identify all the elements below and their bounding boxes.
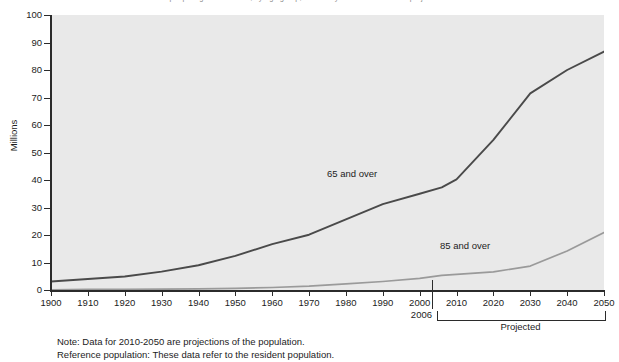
series-line-85-and-over	[51, 233, 604, 290]
x-tick-1960	[272, 291, 273, 296]
projected-bracket	[437, 311, 606, 321]
y-tick-10	[44, 263, 50, 264]
x-tick-1940	[199, 291, 200, 296]
y-tick-80	[44, 70, 50, 71]
y-tick-70	[44, 98, 50, 99]
x-tick-label-1920: 1920	[105, 297, 145, 308]
y-tick-label-0: 0	[10, 285, 42, 295]
x-tick-2040	[567, 291, 568, 296]
x-tick-1900	[51, 291, 52, 296]
x-tick-1930	[162, 291, 163, 296]
y-tick-label-70: 70	[10, 93, 42, 103]
x-tick-1980	[346, 291, 347, 296]
x-tick-label-1900: 1900	[31, 297, 71, 308]
series-line-65-and-over	[51, 52, 604, 282]
x-tick-label-1910: 1910	[68, 297, 108, 308]
x-tick-label-1930: 1930	[142, 297, 182, 308]
x-tick-label-1960: 1960	[252, 297, 292, 308]
x-tick-label-2030: 2030	[510, 297, 550, 308]
y-tick-label-20: 20	[10, 230, 42, 240]
x-tick-1990	[383, 291, 384, 296]
x-axis-line	[50, 290, 605, 292]
x-tick-2020	[493, 291, 494, 296]
footnote-reference: Reference population: These data refer t…	[57, 349, 597, 362]
x-tick-2000	[420, 291, 421, 296]
projected-label: Projected	[437, 321, 604, 332]
x-tick-1950	[235, 291, 236, 296]
x-tick-label-1990: 1990	[363, 297, 403, 308]
y-tick-90	[44, 43, 50, 44]
x-tick-2050	[604, 291, 605, 296]
y-axis-title: Millions	[8, 106, 19, 166]
year-2006-divider	[432, 280, 433, 309]
y-tick-label-40: 40	[10, 175, 42, 185]
series-label-85-and-over: 85 and over	[440, 240, 490, 251]
x-tick-1910	[88, 291, 89, 296]
x-tick-label-2050: 2050	[584, 297, 619, 308]
x-tick-label-2020: 2020	[473, 297, 513, 308]
y-tick-label-100: 100	[10, 10, 42, 20]
x-tick-1920	[125, 291, 126, 296]
footnotes: Note: Data for 2010-2050 are projections…	[57, 336, 597, 361]
y-tick-label-90: 90	[10, 38, 42, 48]
y-tick-0	[44, 290, 50, 291]
y-axis-line	[50, 15, 52, 291]
x-tick-label-1940: 1940	[179, 297, 219, 308]
y-tick-50	[44, 153, 50, 154]
y-tick-label-10: 10	[10, 258, 42, 268]
footnote-note: Note: Data for 2010-2050 are projections…	[57, 336, 597, 349]
y-tick-30	[44, 208, 50, 209]
x-tick-label-2000: 2000	[400, 297, 440, 308]
x-tick-2010	[457, 291, 458, 296]
plot-svg	[51, 15, 604, 290]
x-tick-label-2010: 2010	[437, 297, 477, 308]
y-tick-20	[44, 235, 50, 236]
x-tick-2030	[530, 291, 531, 296]
chart-title: Number of people age 65 and over, by age…	[0, 0, 612, 2]
y-tick-label-30: 30	[10, 203, 42, 213]
plot-area	[51, 15, 604, 290]
y-tick-60	[44, 125, 50, 126]
x-tick-label-1970: 1970	[289, 297, 329, 308]
series-label-65-and-over: 65 and over	[327, 168, 377, 179]
y-tick-label-80: 80	[10, 65, 42, 75]
x-tick-label-1980: 1980	[326, 297, 366, 308]
x-tick-label-2040: 2040	[547, 297, 587, 308]
x-tick-label-1950: 1950	[215, 297, 255, 308]
year-2006-label: 2006	[396, 309, 432, 320]
y-tick-40	[44, 180, 50, 181]
x-tick-1970	[309, 291, 310, 296]
y-tick-100	[44, 15, 50, 16]
